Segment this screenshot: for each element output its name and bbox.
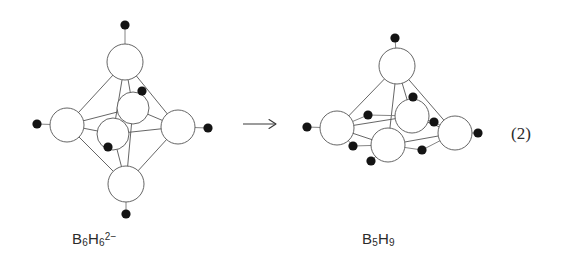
boron-vertex-B-rear xyxy=(395,99,429,133)
boron-vertex-B-left xyxy=(320,111,354,145)
bridging-hydrogen-Hb-rear-right xyxy=(429,117,438,126)
boron-vertex-B-top xyxy=(107,44,143,80)
reactant-structure-b6h6 xyxy=(32,20,212,218)
boron-vertex-B-bottom xyxy=(108,166,144,202)
terminal-hydrogen-H-right xyxy=(203,123,212,132)
terminal-hydrogen-H-left xyxy=(302,122,311,131)
boron-vertex-B-right xyxy=(161,110,195,144)
terminal-hydrogen-H-front xyxy=(366,156,375,165)
boron-vertex-B-rear-center xyxy=(117,92,149,124)
reactant-label: B6H62− xyxy=(72,230,117,248)
terminal-hydrogen-H-rear xyxy=(408,92,417,101)
boron-vertex-B-right xyxy=(438,116,472,150)
bridging-hydrogen-Hb-front-left xyxy=(348,141,357,150)
bridging-hydrogen-Hb-right-front xyxy=(417,145,426,154)
terminal-hydrogen-H-right xyxy=(473,128,482,137)
boron-vertex-B-apex xyxy=(379,48,415,84)
terminal-hydrogen-H-apex xyxy=(390,33,399,42)
reaction-arrow xyxy=(243,120,276,129)
boron-vertex-B-front-center xyxy=(97,118,129,150)
terminal-hydrogen-H-top xyxy=(120,20,129,29)
equation-number: (2) xyxy=(511,124,531,144)
terminal-hydrogen-H-front-center xyxy=(103,142,112,151)
bridging-hydrogen-Hb-left-rear xyxy=(363,110,372,119)
product-structure-b5h9 xyxy=(302,33,482,165)
terminal-hydrogen-H-bottom xyxy=(121,209,130,218)
product-label: B5H9 xyxy=(362,230,395,248)
boron-vertex-B-front xyxy=(371,128,405,162)
terminal-hydrogen-H-rear-center xyxy=(137,86,146,95)
boron-vertex-B-left xyxy=(50,108,84,142)
terminal-hydrogen-H-left xyxy=(32,119,41,128)
